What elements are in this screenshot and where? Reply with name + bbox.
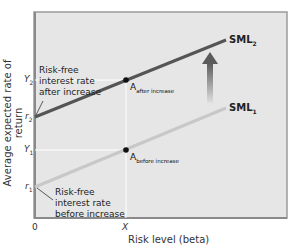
label-a-before: Abefore increase <box>130 152 179 164</box>
note-line: interest rate <box>39 76 101 87</box>
note-line: Risk-free <box>55 187 125 198</box>
note-after-increase: Risk-free interest rate after increase <box>39 65 101 98</box>
y-axis-label: Average expected rate of return <box>2 48 24 198</box>
note-line: interest rate <box>55 198 125 209</box>
label-a-after: Aafter increase <box>130 82 174 94</box>
note-line: after increase <box>39 87 101 98</box>
y-tick-r1: r1 <box>25 181 33 193</box>
x-axis-label: Risk level (beta) <box>128 234 209 245</box>
y-tick-r2: r2 <box>25 111 33 123</box>
note-before-increase: Risk-free interest rate before increase <box>55 187 125 220</box>
x-tick-zero: 0 <box>32 222 38 232</box>
y-tick-y2: Y2 <box>24 74 33 86</box>
x-tick-x: X <box>122 222 128 232</box>
point-a-after <box>123 77 129 83</box>
label-sml1: SML1 <box>229 102 257 115</box>
label-sml2: SML2 <box>229 34 257 47</box>
note-line: before increase <box>55 209 125 220</box>
y-tick-y1: Y1 <box>24 144 33 156</box>
point-a-before <box>123 147 129 153</box>
note-line: Risk-free <box>39 65 101 76</box>
